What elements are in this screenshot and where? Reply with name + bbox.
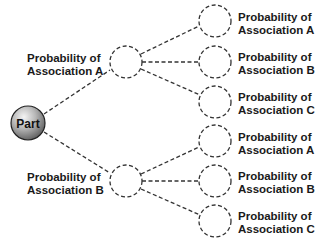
level2-label-b-c-line2: Association C	[238, 223, 315, 236]
level1-label-a-line2: Association A	[27, 65, 103, 78]
connector-b-to-a	[141, 147, 199, 174]
level1-label-a-line1: Probability of	[27, 52, 103, 65]
level2-label-a-c-line1: Probability of	[238, 91, 315, 104]
node-association-a	[110, 46, 142, 78]
level2-label-b-b-line2: Association B	[238, 183, 315, 196]
level2-label-b-c-line1: Probability of	[238, 210, 315, 223]
node-association-b	[110, 165, 142, 197]
level1-label-b-line2: Association B	[27, 184, 104, 197]
level1-label-b: Probability of Association B	[27, 171, 104, 197]
node-a-association-a	[199, 5, 231, 37]
level2-label-a-b-line1: Probability of	[238, 51, 315, 64]
root-label: Part	[16, 117, 39, 131]
level1-nodes	[110, 46, 142, 197]
level2-label-a-c: Probability of Association C	[238, 91, 315, 117]
connector-root-to-b	[44, 132, 110, 173]
level1-label-b-line1: Probability of	[27, 171, 104, 184]
level2-nodes	[199, 5, 231, 237]
level2-label-a-a: Probability of Association A	[238, 11, 314, 37]
connector-a-to-c	[141, 69, 200, 95]
level2-label-a-b-line2: Association B	[238, 64, 315, 77]
level2-label-b-c: Probability of Association C	[238, 210, 315, 236]
level2-label-b-b: Probability of Association B	[238, 170, 315, 196]
root-connectors	[44, 70, 110, 173]
node-a-association-b	[199, 46, 231, 78]
root-node: Part	[11, 106, 45, 140]
level1-label-a: Probability of Association A	[27, 52, 103, 78]
node-b-association-b	[199, 165, 231, 197]
connector-a-to-a	[141, 26, 199, 54]
level2-label-a-a-line1: Probability of	[238, 11, 314, 24]
level2-label-b-a: Probability of Association A	[238, 131, 314, 157]
level2-label-b-b-line1: Probability of	[238, 170, 315, 183]
node-b-association-c	[199, 205, 231, 237]
connector-b-to-c	[141, 189, 200, 215]
level2-label-a-b: Probability of Association B	[238, 51, 315, 77]
level2-label-b-a-line2: Association A	[238, 144, 314, 157]
branch-b-connectors	[141, 147, 200, 215]
node-b-association-a	[199, 125, 231, 157]
level2-label-b-a-line1: Probability of	[238, 131, 314, 144]
node-a-association-c	[199, 86, 231, 118]
branch-a-connectors	[141, 26, 200, 95]
level2-label-a-c-line2: Association C	[238, 104, 315, 117]
level2-label-a-a-line2: Association A	[238, 24, 314, 37]
